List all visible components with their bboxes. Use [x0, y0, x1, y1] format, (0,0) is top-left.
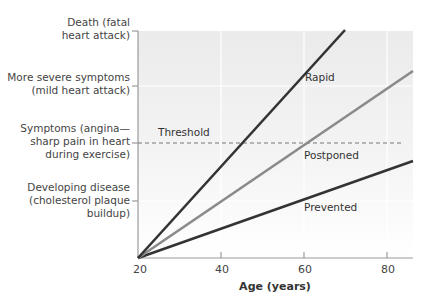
x-tick-40: 40 [215, 263, 229, 276]
x-tick-60: 60 [298, 263, 312, 276]
y-label-symptoms: Symptoms (angina— sharp pain in heart du… [20, 122, 130, 161]
rapid-label: Rapid [305, 71, 335, 83]
plot-background [138, 31, 413, 258]
x-axis-label: Age (years) [239, 280, 311, 293]
y-label-severe-symptoms: More severe symptoms (mild heart attack) [7, 71, 130, 97]
threshold-label: Threshold [158, 126, 210, 138]
x-tick-20: 20 [133, 263, 147, 276]
postponed-label: Postponed [304, 149, 359, 161]
y-label-developing-disease: Developing disease (cholesterol plaque b… [27, 181, 130, 220]
y-label-death: Death (fatal heart attack) [62, 16, 130, 42]
prevented-label: Prevented [304, 201, 357, 213]
x-tick-80: 80 [381, 263, 395, 276]
